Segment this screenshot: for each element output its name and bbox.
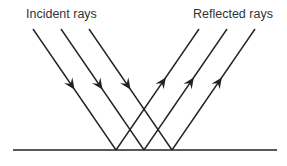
reflection-diagram xyxy=(0,0,287,166)
reflected-ray xyxy=(172,29,255,150)
arrow-head-icon xyxy=(211,77,221,89)
arrow-head-icon xyxy=(155,77,165,89)
reflected-ray xyxy=(116,29,199,150)
arrow-head-icon xyxy=(120,78,130,90)
reflected-ray xyxy=(144,29,227,150)
reflected-rays xyxy=(116,29,255,150)
arrow-head-icon xyxy=(64,78,74,90)
incident-rays xyxy=(33,29,172,150)
arrow-head-icon xyxy=(183,77,193,89)
arrow-head-icon xyxy=(92,78,102,90)
